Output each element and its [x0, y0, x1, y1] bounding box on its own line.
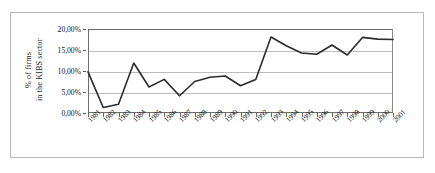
data-series-line [88, 29, 393, 113]
y-axis-title-line1: % of firms [24, 24, 33, 116]
y-axis-tick-mark [83, 71, 86, 72]
x-axis-tick-labels: 1981198219831984198519861987198819891990… [60, 116, 420, 156]
chart-figure: % of firms in the KIBS sector 20,00%15,0… [0, 0, 435, 173]
y-axis-tick-mark [83, 113, 86, 114]
y-axis-tick-label: 15,00% [58, 46, 81, 55]
y-axis-title: % of firms in the KIBS sector [22, 24, 56, 116]
y-axis-tick-labels: 20,00%15,00%10,00%5,00%0,00% [56, 24, 86, 118]
y-axis-tick-mark [83, 92, 86, 93]
y-axis-tick-label: 20,00% [58, 25, 81, 34]
y-axis-tick-label: 10,00% [58, 67, 81, 76]
plot-area-wrapper [88, 29, 393, 113]
y-axis-tick-mark [83, 50, 86, 51]
y-axis-tick-label: 5,00% [61, 88, 81, 97]
y-axis-title-line2: in the KIBS sector [35, 24, 44, 116]
y-axis-tick-mark [83, 29, 86, 30]
